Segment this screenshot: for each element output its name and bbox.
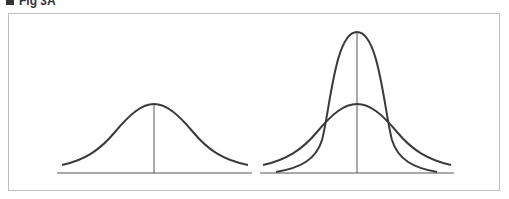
distribution-diagram xyxy=(0,0,509,199)
wide-curve-left xyxy=(62,104,248,165)
left-panel xyxy=(57,104,252,173)
right-panel xyxy=(260,32,454,173)
